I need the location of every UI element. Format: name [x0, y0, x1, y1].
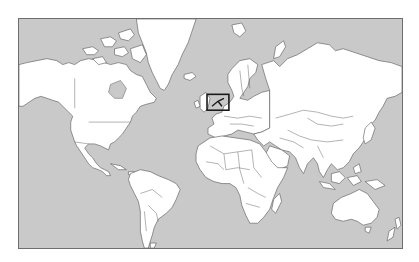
australia [331, 190, 401, 242]
north-america [19, 29, 156, 176]
map-canvas [19, 19, 402, 248]
south-america [128, 170, 180, 248]
southeast-asia-islands [319, 164, 385, 190]
world-map [18, 18, 403, 249]
asia [254, 41, 402, 178]
highlight-marker-icon [212, 98, 224, 106]
europe [194, 23, 270, 138]
